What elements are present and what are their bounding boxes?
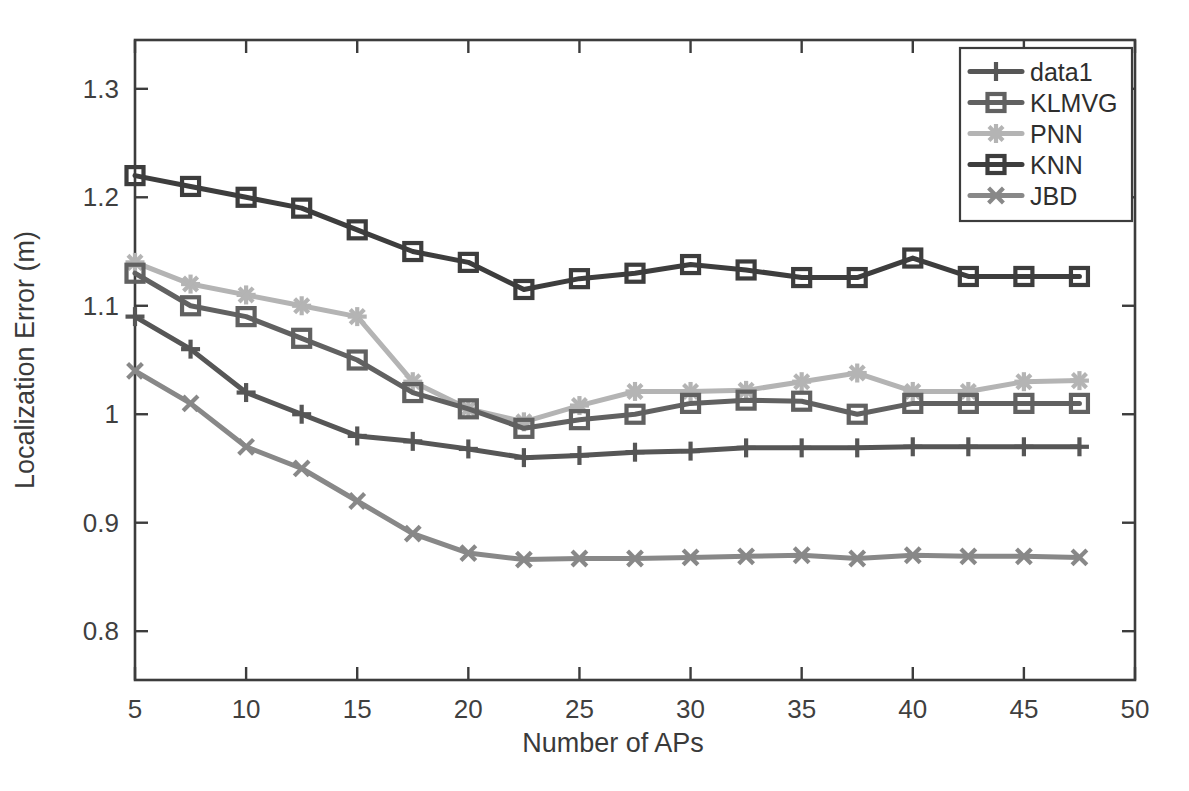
y-tick-label: 1.1 [83, 291, 119, 321]
x-tick-label: 30 [676, 694, 705, 724]
y-tick-label: 1 [105, 399, 119, 429]
legend-label: KNN [1030, 151, 1083, 179]
x-tick-label: 25 [565, 694, 594, 724]
y-tick-label: 0.8 [83, 616, 119, 646]
legend-label: data1 [1030, 58, 1093, 86]
y-tick-label: 0.9 [83, 508, 119, 538]
legend-item-klmvg[interactable]: KLMVG [970, 89, 1118, 117]
y-tick-label: 1.3 [83, 74, 119, 104]
legend-marker-star-icon [987, 124, 1006, 143]
legend-label: KLMVG [1030, 89, 1118, 117]
x-tick-label: 40 [898, 694, 927, 724]
y-axis-label: Localization Error (m) [10, 231, 40, 489]
x-tick-label: 45 [1009, 694, 1038, 724]
chart-legend: data1KLMVGPNNKNNJBD [960, 48, 1132, 221]
legend-label: PNN [1030, 120, 1083, 148]
legend-label: JBD [1030, 182, 1077, 210]
x-tick-label: 5 [128, 694, 142, 724]
y-tick-label: 1.2 [83, 182, 119, 212]
chart-figure: 0.80.911.11.21.3 5101520253035404550 Num… [0, 0, 1189, 791]
x-tick-label: 20 [454, 694, 483, 724]
x-tick-label: 35 [787, 694, 816, 724]
x-axis-label: Number of APs [522, 728, 704, 758]
x-tick-label: 10 [232, 694, 261, 724]
x-tick-label: 15 [343, 694, 372, 724]
x-tick-label: 50 [1121, 694, 1150, 724]
